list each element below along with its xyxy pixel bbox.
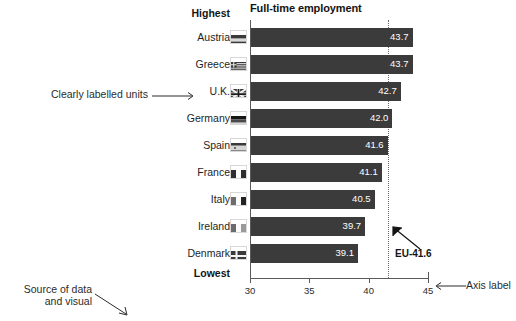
- chart-row: Germany42.0: [0, 109, 516, 128]
- flag-austria-icon: [230, 30, 247, 44]
- country-label: Germany: [187, 112, 230, 124]
- bar-value-label: 40.5: [352, 193, 371, 204]
- chart-row: Italy40.5: [0, 190, 516, 209]
- country-label: U.K.: [210, 85, 230, 97]
- bar-value-label: 42.0: [370, 112, 389, 123]
- x-axis-tick: [250, 278, 251, 283]
- chart-row: France41.1: [0, 163, 516, 182]
- country-label: France: [197, 166, 230, 178]
- bar: 41.6: [251, 136, 388, 155]
- flag-france-icon: [230, 165, 247, 179]
- bar-value-label: 39.1: [335, 247, 354, 258]
- country-label: Ireland: [198, 220, 230, 232]
- x-axis-tick-label: 40: [363, 285, 374, 296]
- chart-row: Austria43.7: [0, 28, 516, 47]
- chart-row: Spain41.6: [0, 136, 516, 155]
- country-label: Austria: [197, 31, 230, 43]
- x-axis-tick-label: 45: [423, 285, 434, 296]
- bar-value-label: 41.6: [365, 139, 384, 150]
- flag-germany-icon: [230, 111, 247, 125]
- bar: 42.0: [251, 109, 392, 128]
- flag-spain-icon: [230, 138, 247, 152]
- x-axis-tick: [309, 278, 310, 283]
- bar: 39.7: [251, 217, 365, 236]
- x-axis-tick-label: 35: [304, 285, 315, 296]
- bar-chart: Full-time employment Highest Lowest EU-4…: [0, 0, 516, 321]
- country-label: Spain: [203, 139, 230, 151]
- rank-label-highest: Highest: [191, 7, 230, 19]
- flag-ireland-icon: [230, 219, 247, 233]
- bar-value-label: 43.7: [390, 31, 409, 42]
- flag-denmark-icon: [230, 246, 247, 260]
- country-label: Greece: [196, 58, 230, 70]
- country-label: Denmark: [187, 247, 230, 259]
- bar: 39.1: [251, 244, 358, 263]
- chart-row: Denmark39.1: [0, 244, 516, 263]
- chart-page: Clearly labelled units Axis label Source…: [0, 0, 516, 321]
- bar-value-label: 42.7: [378, 85, 397, 96]
- flag-italy-icon: [230, 192, 247, 206]
- flag-greece-icon: [230, 57, 247, 71]
- rank-label-lowest: Lowest: [194, 267, 230, 279]
- x-axis-tick-label: 30: [245, 285, 256, 296]
- chart-row: Ireland39.7: [0, 217, 516, 236]
- flag-uk-icon: [230, 84, 247, 98]
- bar: 41.1: [251, 163, 382, 182]
- bar-value-label: 43.7: [390, 58, 409, 69]
- chart-row: Greece43.7: [0, 55, 516, 74]
- chart-title: Full-time employment: [250, 2, 362, 14]
- x-axis-line: [250, 278, 429, 279]
- chart-row: U.K.42.7: [0, 82, 516, 101]
- x-axis-tick: [428, 278, 429, 283]
- country-label: Italy: [211, 193, 230, 205]
- bar-value-label: 41.1: [359, 166, 378, 177]
- bar: 43.7: [251, 55, 413, 74]
- bar: 40.5: [251, 190, 375, 209]
- bar: 43.7: [251, 28, 413, 47]
- bar-value-label: 39.7: [343, 220, 362, 231]
- x-axis-tick: [369, 278, 370, 283]
- bar: 42.7: [251, 82, 401, 101]
